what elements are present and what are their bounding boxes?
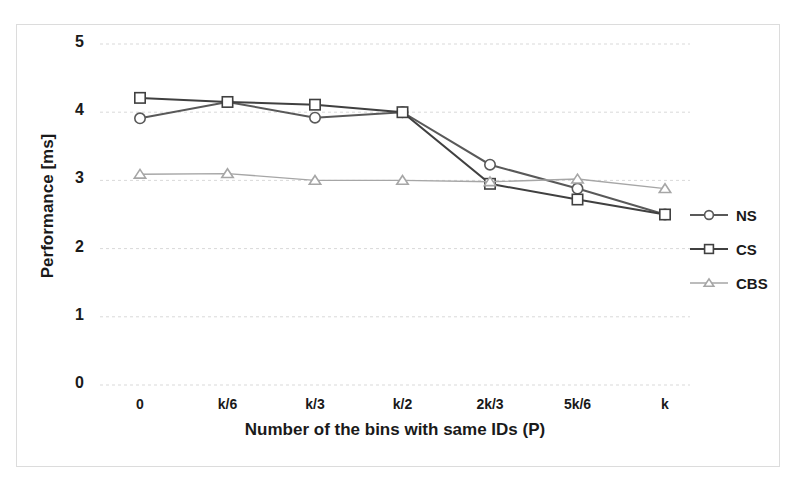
square-marker [397,107,407,117]
square-marker [135,93,145,103]
legend-label: NS [730,207,757,224]
circle-marker [310,112,320,122]
legend-swatch-circle-icon [688,206,730,224]
legend-item-cs[interactable]: CS [688,232,780,266]
x-tick-label: 0 [105,396,175,412]
x-tick-label: 5k/6 [543,396,613,412]
square-marker [222,97,232,107]
square-marker [310,99,320,109]
x-tick-label: k/3 [280,396,350,412]
x-tick-label: k [630,396,700,412]
circle-marker [572,183,582,193]
chart-legend: NSCSCBS [688,198,780,300]
y-tick-label: 5 [44,33,84,51]
legend-item-cbs[interactable]: CBS [688,266,780,300]
x-tick-label: k/6 [193,396,263,412]
circle-marker [705,211,714,220]
legend-label: CBS [730,275,768,292]
x-tick-label: 2k/3 [455,396,525,412]
circle-marker [135,113,145,123]
chart-figure: 012345 0k/6k/3k/22k/35k/6k Performance [… [0,0,796,501]
legend-swatch-square-icon [688,240,730,258]
series-line [140,102,665,215]
legend-item-ns[interactable]: NS [688,198,780,232]
y-axis-title: Performance [ms] [38,96,58,316]
x-axis-title: Number of the bins with same IDs (P) [100,420,690,440]
legend-swatch-triangle-icon [688,274,730,292]
square-marker [572,194,582,204]
square-marker [705,245,714,254]
legend-label: CS [730,241,757,258]
gridlines [100,44,690,385]
x-tick-label: k/2 [368,396,438,412]
y-tick-label: 0 [44,374,84,392]
circle-marker [485,160,495,170]
square-marker [660,209,670,219]
